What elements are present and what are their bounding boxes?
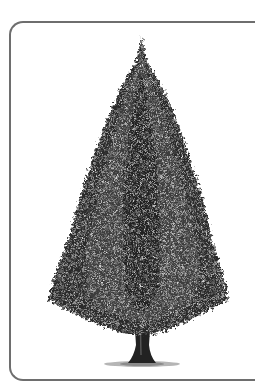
tree-illustration [0, 0, 255, 392]
